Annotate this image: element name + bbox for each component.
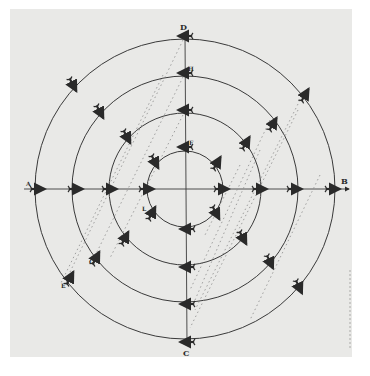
diagram: D H F A B C L G E — [0, 0, 370, 376]
label-l: L — [142, 205, 147, 212]
label-f: F — [189, 139, 194, 146]
dotted-guides — [60, 36, 320, 328]
label-c: C — [183, 348, 189, 358]
label-e: E — [61, 282, 66, 289]
label-d: D — [180, 22, 187, 32]
label-h: H — [188, 65, 194, 72]
label-a: A — [25, 180, 31, 187]
label-b: B — [341, 176, 348, 186]
label-g: G — [89, 258, 94, 265]
